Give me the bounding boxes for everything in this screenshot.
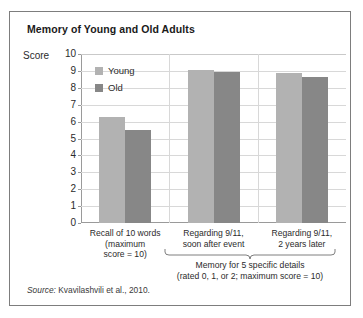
y-tick-label-0: 0 [70,218,76,228]
y-tick-label-8: 8 [70,83,76,93]
bar-young-cat1 [188,70,214,223]
legend-swatch-old-icon [95,84,103,92]
plot-wrap: 109876543210 Young Old [81,54,346,223]
category-divider-2 [258,54,259,223]
bar-old-cat0 [125,130,151,223]
legend-item-young: Young [95,64,135,77]
y-tick-label-2: 2 [70,184,76,194]
legend-label-young: Young [108,66,135,76]
y-tick-label-4: 4 [70,150,76,160]
category-label-0-line-2: score = 10) [75,249,175,260]
category-label-1: Regarding 9/11,soon after event [163,228,263,249]
brace-caption: Memory for 5 specific details (rated 0, … [130,260,363,282]
y-tick-label-5: 5 [70,134,76,144]
chart-legend: Young Old [95,64,135,98]
y-tick-mark-5 [78,139,81,140]
bar-young-cat0 [99,117,125,223]
y-tick-mark-2 [78,189,81,190]
legend-item-old: Old [95,81,135,94]
y-tick-mark-3 [78,172,81,173]
y-tick-mark-1 [78,206,81,207]
source-citation: Kvavilashvili et al., 2010. [58,285,150,295]
y-tick-label-10: 10 [65,49,76,59]
legend-swatch-young-icon [95,67,103,75]
y-tick-label-6: 6 [70,117,76,127]
y-tick-label-3: 3 [70,167,76,177]
y-tick-mark-10 [78,54,81,55]
y-axis-title: Score [23,50,49,61]
category-label-0-line-1: (maximum [75,239,175,250]
brace-caption-line-1: Memory for 5 specific details [130,260,363,271]
category-divider-1 [169,54,170,223]
y-tick-mark-0 [78,223,81,224]
y-tick-label-7: 7 [70,100,76,110]
legend-label-old: Old [108,83,123,93]
bar-old-cat1 [214,72,240,223]
y-tick-label-9: 9 [70,66,76,76]
y-tick-mark-4 [78,155,81,156]
grouping-brace-icon [164,248,336,260]
figure-frame: Memory of Young and Old Adults Score 109… [9,11,351,306]
gridline-10 [81,54,346,55]
bar-young-cat2 [276,73,302,223]
category-label-2-line-0: Regarding 9/11, [252,228,352,239]
y-tick-mark-6 [78,122,81,123]
category-label-2: Regarding 9/11,2 years later [252,228,352,249]
source-line: Source: Kvavilashvili et al., 2010. [27,285,150,295]
category-label-1-line-0: Regarding 9/11, [163,228,263,239]
brace-caption-line-2: (rated 0, 1, or 2; maximum score = 10) [130,271,363,282]
bar-old-cat2 [302,77,328,223]
y-tick-mark-7 [78,105,81,106]
y-tick-mark-8 [78,88,81,89]
category-label-0: Recall of 10 words(maximumscore = 10) [75,228,175,260]
y-tick-mark-9 [78,71,81,72]
source-label: Source: [27,285,56,295]
category-label-0-line-0: Recall of 10 words [75,228,175,239]
chart-title: Memory of Young and Old Adults [27,23,195,35]
y-tick-label-1: 1 [70,201,76,211]
